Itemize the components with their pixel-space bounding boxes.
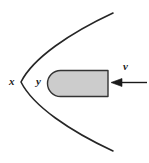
label-v: v (123, 61, 128, 72)
label-y: y (36, 76, 41, 87)
figure-canvas (0, 0, 149, 163)
physics-figure: x y v (0, 0, 149, 163)
label-x: x (9, 76, 15, 87)
rounded-block (48, 71, 109, 97)
